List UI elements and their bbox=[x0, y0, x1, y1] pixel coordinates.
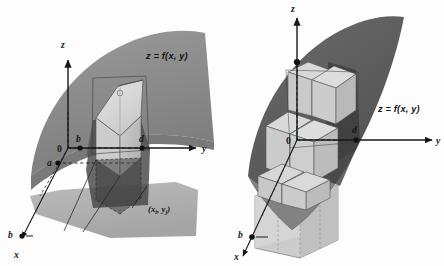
left-sample-point-annotation: (xi, yj) bbox=[148, 204, 170, 215]
left-a-label: a bbox=[47, 157, 52, 168]
point-a bbox=[55, 160, 60, 165]
right-z-axis-label: z bbox=[290, 3, 295, 14]
right-d-on-y-axis-label: d bbox=[352, 124, 357, 135]
point-b-on-x bbox=[19, 233, 24, 238]
point-d-on-y bbox=[139, 145, 144, 150]
right-b-on-x-axis-label: b bbox=[238, 229, 243, 240]
right-point-b-on-x bbox=[249, 234, 255, 240]
left-surface-equation-label: z = f(x, y) bbox=[145, 51, 188, 61]
svg-text:(xi, yj): (xi, yj) bbox=[148, 204, 170, 215]
sample-mid: , y bbox=[156, 204, 165, 214]
right-y-axis-label: y bbox=[435, 135, 441, 146]
right-z-point bbox=[294, 59, 300, 65]
right-x-axis-label: x bbox=[233, 251, 239, 262]
right-origin-label: 0 bbox=[286, 135, 291, 146]
math-figure-svg: z = f(x, y) 0 b d a b z y x (xi, yj) bbox=[0, 0, 444, 266]
left-d-on-y-axis-label: d bbox=[139, 133, 144, 144]
right-panel bbox=[243, 16, 432, 258]
left-panel bbox=[19, 31, 214, 239]
right-point-d-on-y bbox=[353, 137, 359, 143]
left-y-axis-label: y bbox=[201, 143, 207, 154]
left-b-on-y-axis-label: b bbox=[76, 133, 81, 144]
left-x-axis-label: x bbox=[13, 249, 19, 260]
sample-close: ) bbox=[166, 204, 170, 214]
left-origin-label: 0 bbox=[57, 143, 62, 154]
right-surface-equation-label: z = f(x, y) bbox=[377, 104, 420, 114]
left-z-axis-label: z bbox=[60, 39, 65, 50]
figure-root: z = f(x, y) 0 b d a b z y x (xi, yj) bbox=[0, 0, 444, 266]
point-b-on-y bbox=[77, 145, 82, 150]
left-b-on-x-axis-label: b bbox=[8, 229, 13, 240]
